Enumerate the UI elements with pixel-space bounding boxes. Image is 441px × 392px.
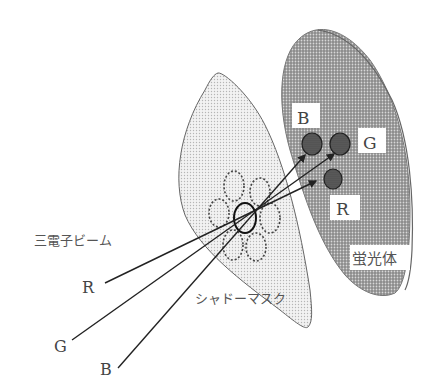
phosphor-dot-r [324, 169, 342, 189]
label-beam-r: R [82, 278, 95, 297]
phosphor-dot-g [330, 133, 350, 155]
label-dot-g: G [363, 133, 377, 153]
label-beam-b: B [100, 360, 112, 379]
phosphor-dot-b [302, 133, 322, 155]
label-dot-b: B [297, 108, 310, 128]
crt-shadow-mask-diagram: B G R 蛍光体 三電子ビーム シャドーマスク R G B [0, 0, 441, 392]
label-beam-g: G [54, 337, 67, 356]
label-shadow-mask: シャドーマスク [195, 291, 286, 306]
label-electron-beams: 三電子ビーム [34, 233, 112, 248]
diagram-canvas: B G R 蛍光体 三電子ビーム シャドーマスク R G B [0, 0, 441, 392]
label-phosphor: 蛍光体 [352, 250, 397, 268]
label-dot-r: R [336, 199, 350, 219]
